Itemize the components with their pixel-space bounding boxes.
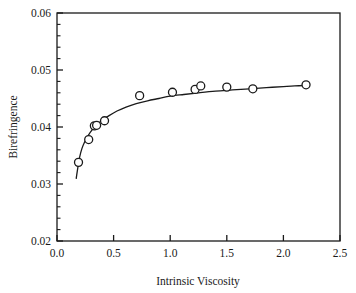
data-point [136, 92, 144, 100]
data-point [197, 82, 205, 90]
data-point [93, 121, 101, 129]
x-axis-title: Intrinsic Viscosity [156, 275, 240, 288]
y-axis-title: Birefringence [7, 95, 20, 158]
x-tick-label: 0.5 [106, 247, 121, 259]
chart-figure: 0.020.030.040.050.06 0.00.51.01.52.02.5 … [0, 0, 356, 293]
data-point [302, 81, 310, 89]
x-tick-label: 1.0 [163, 247, 178, 259]
x-tick-label: 2.0 [276, 247, 291, 259]
data-point [249, 85, 257, 93]
data-point [75, 158, 83, 166]
y-tick-label: 0.06 [31, 7, 51, 19]
x-tick-label: 0.0 [50, 247, 65, 259]
x-tick-label: 2.5 [333, 247, 348, 259]
y-tick-label: 0.05 [31, 64, 51, 76]
data-point [223, 83, 231, 91]
y-tick-label: 0.04 [31, 121, 51, 133]
y-tick-label: 0.02 [31, 235, 51, 247]
y-tick-label: 0.03 [31, 178, 51, 190]
chart-svg: 0.020.030.040.050.06 0.00.51.01.52.02.5 … [0, 0, 356, 293]
data-point [85, 136, 93, 144]
x-tick-label: 1.5 [220, 247, 235, 259]
data-point [168, 88, 176, 96]
data-point [101, 117, 109, 125]
